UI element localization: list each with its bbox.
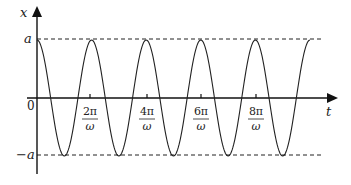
tick-label-2pi: 2π ω [82, 105, 98, 133]
tick-label-6pi: 6π ω [193, 105, 209, 133]
svg-text:2π: 2π [83, 105, 97, 118]
svg-text:ω: ω [252, 120, 261, 133]
a-label: a [24, 31, 32, 46]
y-axis-label: x [20, 5, 28, 20]
svg-text:ω: ω [143, 120, 152, 133]
tick-label-4pi: 4π ω [139, 105, 155, 133]
svg-text:8π: 8π [249, 105, 263, 118]
cosine-chart: x t a −a 0 2π ω 4π ω 6π ω 8π ω [0, 0, 351, 185]
neg-a-label: −a [16, 147, 35, 162]
svg-text:ω: ω [197, 120, 206, 133]
x-axis-label: t [326, 104, 332, 119]
svg-text:ω: ω [86, 120, 95, 133]
y-axis-arrow-icon [32, 6, 42, 17]
svg-text:4π: 4π [140, 105, 154, 118]
x-axis-arrow-icon [327, 93, 338, 103]
tick-label-8pi: 8π ω [248, 105, 264, 133]
origin-label: 0 [27, 99, 35, 113]
svg-text:6π: 6π [194, 105, 208, 118]
